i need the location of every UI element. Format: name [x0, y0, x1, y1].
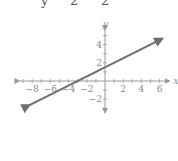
x-tick-label: 6 — [157, 84, 163, 94]
x-axis-label: x — [174, 76, 178, 86]
y-tick-label: 2 — [96, 58, 102, 68]
line-graph: −8−6−4−224642−2 x y — [0, 0, 178, 161]
x-tick-label: −2 — [80, 84, 93, 94]
y-tick-label: −2 — [89, 94, 102, 104]
x-tick-label: −8 — [26, 84, 40, 94]
y-axis-label: y — [102, 19, 109, 29]
plot-area: −8−6−4−224642−2 — [19, 30, 169, 113]
y-tick-label: 4 — [96, 40, 102, 50]
x-tick-label: 4 — [139, 84, 145, 94]
x-tick-label: 2 — [120, 84, 126, 94]
